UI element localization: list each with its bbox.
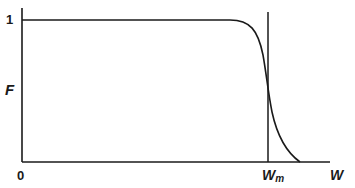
y-axis-label: F — [5, 82, 14, 97]
f-curve — [22, 20, 300, 162]
chart-canvas — [0, 0, 355, 188]
x-tick-label-zero: 0 — [17, 169, 24, 182]
x-tick-label-wm: Wm — [262, 168, 284, 184]
wm-subscript: m — [275, 173, 284, 184]
x-axis-label: W — [330, 168, 343, 182]
wm-main: W — [262, 167, 275, 183]
y-tick-label-one: 1 — [6, 13, 13, 26]
